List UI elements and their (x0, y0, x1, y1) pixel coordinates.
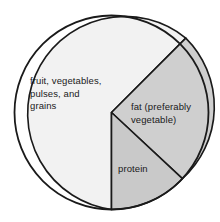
pie-chart-figure: fruit, vegetables, pulses, and grains fa… (0, 0, 220, 222)
pie-chart-svg (0, 0, 220, 222)
